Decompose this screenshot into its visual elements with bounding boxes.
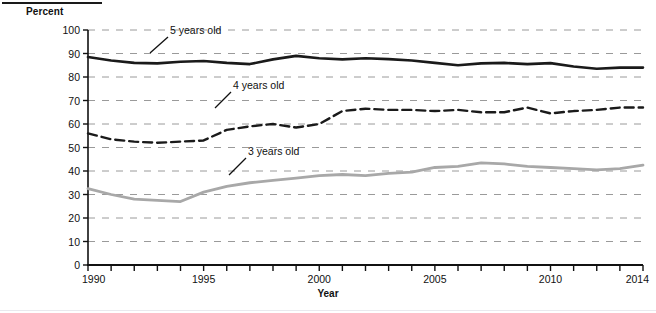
y-tick-label: 30 [68, 189, 80, 201]
y-tick-label: 50 [68, 142, 80, 154]
y-tick-label: 20 [68, 212, 80, 224]
x-tick-label: 2005 [423, 273, 447, 285]
x-axis-title: Year [0, 288, 656, 299]
y-tick-label: 0 [74, 259, 80, 271]
y-tick-label: 90 [68, 48, 80, 60]
x-tick-label: 1995 [192, 273, 216, 285]
series-line [88, 108, 643, 143]
x-tick-label: 2010 [539, 273, 563, 285]
header-rule [2, 2, 102, 4]
y-tick-label: 70 [68, 95, 80, 107]
annotation-leader-line [229, 158, 246, 175]
x-tick-label: 2014 [626, 273, 650, 285]
y-axis-title: Percent [26, 6, 63, 17]
x-tick-label: 2000 [308, 273, 332, 285]
chart-figure: Percent 01020304050607080901001990199520… [0, 0, 656, 313]
y-tick-label: 100 [62, 24, 80, 36]
series-annotation-label: 5 years old [170, 24, 222, 36]
series-annotation-label: 3 years old [248, 145, 300, 157]
line-chart-plot: 0102030405060708090100199019952000200520… [0, 0, 656, 313]
annotation-leader-line [150, 37, 168, 53]
series-line [88, 56, 643, 69]
footer-rule [0, 310, 656, 311]
y-tick-label: 60 [68, 118, 80, 130]
series-line [88, 163, 643, 202]
series-annotation-label: 4 years old [233, 79, 285, 91]
y-tick-label: 10 [68, 236, 80, 248]
y-tick-label: 40 [68, 165, 80, 177]
y-tick-label: 80 [68, 71, 80, 83]
x-tick-label: 1990 [82, 273, 106, 285]
